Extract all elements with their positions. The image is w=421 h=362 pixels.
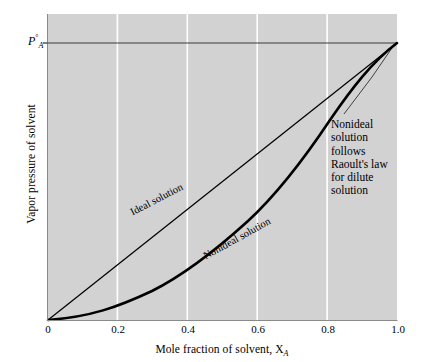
x-axis-title: Mole fraction of solvent, XA [155,343,288,355]
x-tick-label-0.4: 0.4 [175,323,201,335]
y-tick-label-subscript: A [39,41,44,50]
nonideal-annotation: Nonideal solution follows Raoult's law f… [331,118,419,198]
annotation-line-6: solution [331,184,419,197]
x-axis-title-text: Mole fraction of solvent, X [155,343,283,355]
annotation-line-5: for dilute [331,171,419,184]
x-tick-label-1.0: 1.0 [385,323,411,335]
y-tick-label-p-zero: P°A [28,33,43,50]
annotation-line-1: Nonideal [331,118,419,131]
x-axis-title-wrap: Mole fraction of solvent, XA [47,339,397,358]
x-tick-label-0.2: 0.2 [105,323,131,335]
x-tick-label-0.8: 0.8 [315,323,341,335]
x-axis-title-subscript: A [284,349,289,358]
annotation-line-3: follows [331,145,419,158]
annotation-line-2: solution [331,131,419,144]
x-tick-label-0: 0 [38,323,58,335]
annotation-line-4: Raoult's law [331,158,419,171]
y-axis-title-wrap: Vapor pressure of solvent [21,54,39,274]
y-axis-title: Vapor pressure of solvent [25,104,37,224]
x-tick-label-0.6: 0.6 [245,323,271,335]
vapor-pressure-chart-figure: Vapor pressure of solvent Mole fraction … [0,0,421,362]
